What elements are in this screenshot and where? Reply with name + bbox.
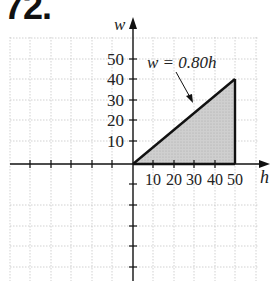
x-tick-label: 10 <box>145 171 161 188</box>
x-tick-label: 30 <box>186 171 202 188</box>
y-tick-label: 30 <box>107 91 124 110</box>
equation-label: w = 0.80h <box>147 53 217 72</box>
x-tick-label: 50 <box>227 171 243 188</box>
x-axis-label: h <box>260 167 269 187</box>
y-axis-label: w <box>114 15 126 34</box>
y-tick-label: 40 <box>107 70 124 89</box>
label-pointer-arrowhead-icon <box>186 94 193 103</box>
label-pointer <box>176 72 191 99</box>
y-tick-label: 20 <box>107 111 124 130</box>
chart-canvas: 50 40 30 20 10 10 20 30 40 50 w h w = 0.… <box>0 0 276 281</box>
y-tick-label: 50 <box>107 50 124 69</box>
y-tick-label: 10 <box>107 132 124 151</box>
x-tick-label: 20 <box>166 171 182 188</box>
w-axis-arrow-icon <box>129 17 137 29</box>
x-tick-label: 40 <box>207 171 223 188</box>
